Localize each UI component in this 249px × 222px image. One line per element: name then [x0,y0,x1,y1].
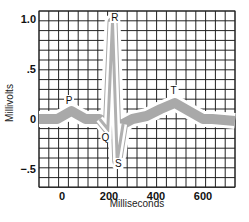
y-tick-label: −.5 [20,163,36,175]
wave-label-p: P [66,95,73,106]
y-tick-label: .5 [27,63,36,75]
y-tick-label: 1.0 [21,13,36,25]
x-tick-label: 600 [194,190,212,202]
x-axis-label: Milliseconds [110,198,164,209]
y-tick-label: 0 [30,113,36,125]
y-axis-ticks: 1.0.50−.5 [20,13,36,175]
wave-label-s: S [115,158,122,169]
wave-label-r: R [111,12,118,23]
wave-label-q: Q [102,132,110,143]
wave-label-t: T [171,85,177,96]
x-tick-label: 0 [59,190,65,202]
ecg-chart: PQRST 1.0.50−.5 0200400600 Millivolts Mi… [0,0,249,222]
y-axis-label: Millivolts [4,84,15,122]
